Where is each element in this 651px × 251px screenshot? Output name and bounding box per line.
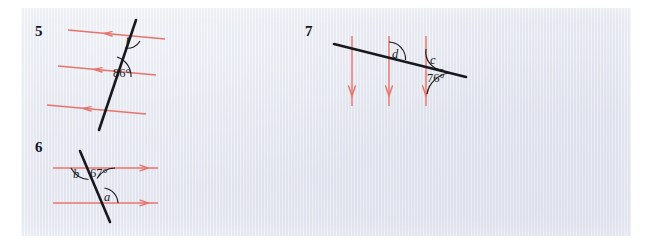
problem-7-figure: d c 76° xyxy=(334,36,466,106)
angle-label-t: t xyxy=(126,33,130,47)
angle-label-86: 86° xyxy=(113,66,131,80)
transversal-line xyxy=(80,151,110,222)
transversal-line xyxy=(334,44,466,77)
angle-label-76: 76° xyxy=(427,71,445,85)
angle-label-b: b xyxy=(73,167,79,181)
geometry-figures: t 86° b 67° a xyxy=(0,0,651,251)
parallel-line-3 xyxy=(47,105,146,114)
parallel-line-1 xyxy=(68,30,165,39)
worksheet-page: 5 6 7 t 86° xyxy=(0,0,651,251)
angle-label-67: 67° xyxy=(90,166,108,180)
problem-6-figure: b 67° a xyxy=(53,151,158,222)
angle-label-d: d xyxy=(392,47,399,61)
angle-label-c: c xyxy=(430,53,436,67)
angle-label-a: a xyxy=(104,190,110,204)
problem-5-figure: t 86° xyxy=(47,20,165,130)
parallel-line-2 xyxy=(58,66,156,75)
